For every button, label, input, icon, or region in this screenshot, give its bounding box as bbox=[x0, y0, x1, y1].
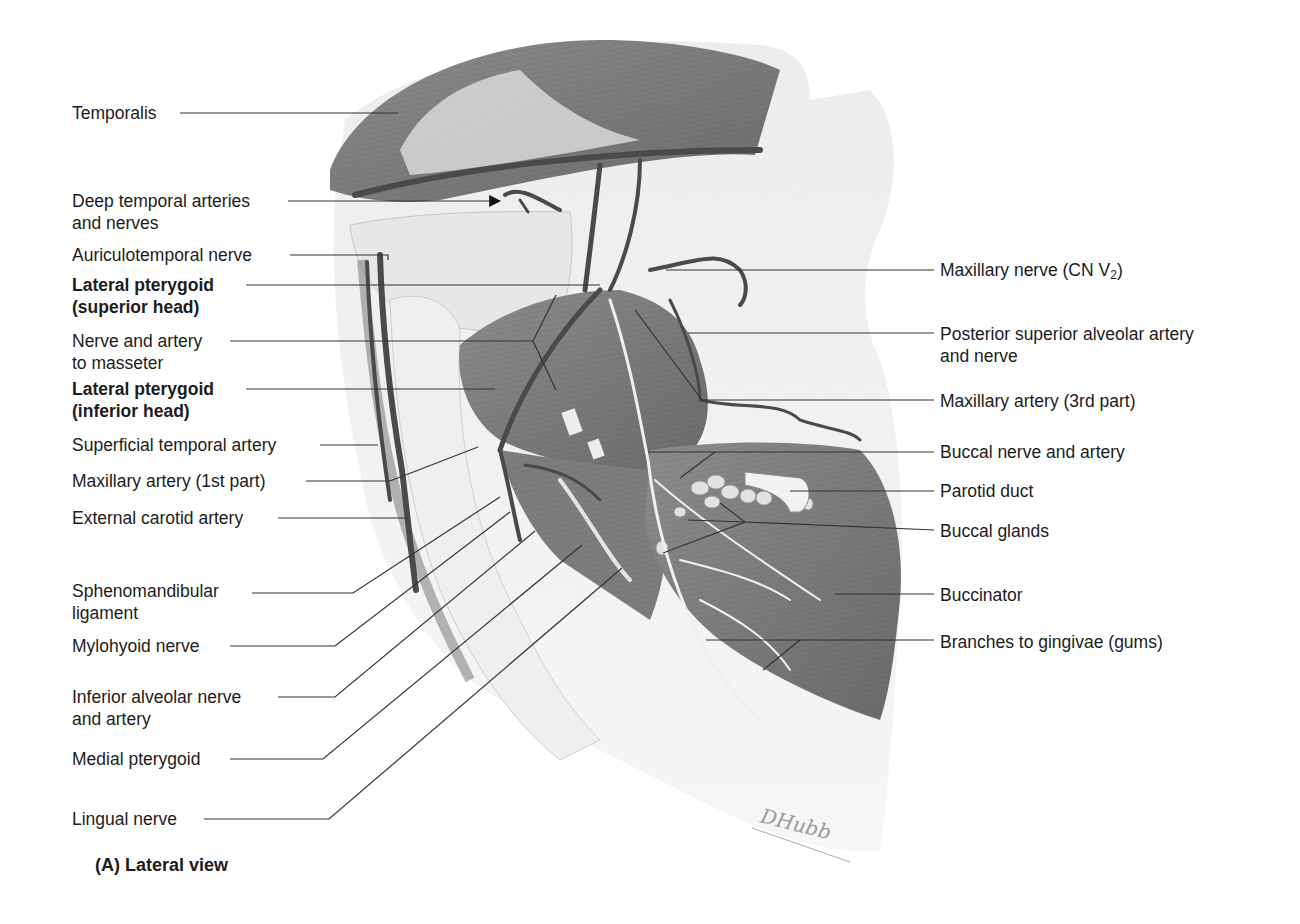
label-lateral-pterygoid-inferior: Lateral pterygoid (inferior head) bbox=[72, 378, 214, 422]
label-temporalis: Temporalis bbox=[72, 102, 157, 124]
label-posterior-superior-alveolar: Posterior superior alveolar artery and n… bbox=[940, 323, 1194, 367]
label-superficial-temporal-artery: Superficial temporal artery bbox=[72, 434, 276, 456]
label-nerve-artery-masseter: Nerve and artery to masseter bbox=[72, 330, 202, 374]
label-lingual-nerve: Lingual nerve bbox=[72, 808, 177, 830]
label-buccal-nerve-artery: Buccal nerve and artery bbox=[940, 441, 1125, 463]
label-lateral-pterygoid-superior: Lateral pterygoid (superior head) bbox=[72, 274, 214, 318]
label-branches-gingivae: Branches to gingivae (gums) bbox=[940, 631, 1163, 653]
figure-caption: (A) Lateral view bbox=[95, 855, 228, 876]
label-parotid-duct: Parotid duct bbox=[940, 480, 1033, 502]
label-external-carotid-artery: External carotid artery bbox=[72, 507, 243, 529]
label-maxillary-artery-3rd: Maxillary artery (3rd part) bbox=[940, 390, 1135, 412]
label-maxillary-nerve: Maxillary nerve (CN V2) bbox=[940, 259, 1123, 286]
label-auriculotemporal-nerve: Auriculotemporal nerve bbox=[72, 244, 252, 266]
label-deep-temporal-arteries-nerves: Deep temporal arteries and nerves bbox=[72, 190, 250, 234]
label-buccinator: Buccinator bbox=[940, 584, 1023, 606]
label-sphenomandibular-ligament: Sphenomandibular ligament bbox=[72, 580, 219, 624]
label-medial-pterygoid: Medial pterygoid bbox=[72, 748, 200, 770]
label-mylohyoid-nerve: Mylohyoid nerve bbox=[72, 635, 199, 657]
label-maxillary-artery-1st: Maxillary artery (1st part) bbox=[72, 470, 266, 492]
label-inferior-alveolar: Inferior alveolar nerve and artery bbox=[72, 686, 241, 730]
label-buccal-glands: Buccal glands bbox=[940, 520, 1049, 542]
